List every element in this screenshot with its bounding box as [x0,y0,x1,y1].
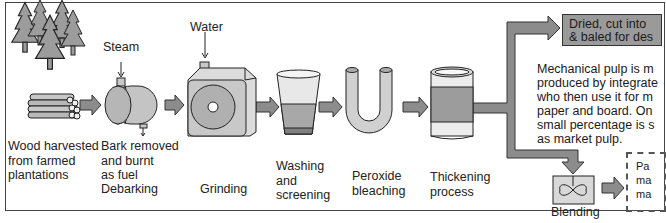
debarking-drum-icon [105,62,157,136]
stage-blending-label: Blending [551,205,600,220]
arrow-1 [80,95,101,115]
stage-bleaching-label: Peroxide bleaching [352,169,406,198]
stage-debarking-sublabel: Debarking [101,182,158,197]
steam-label: Steam [103,40,139,55]
arrow-4 [319,97,342,117]
output-paper-box: Pa ma ma [626,152,666,212]
stage-grinding-label: Grinding [200,182,247,197]
water-label: Water [190,20,223,35]
grinder-icon [188,32,256,136]
output-dried-baled-box: Dried, cut into & baled for des [562,14,662,46]
trees-icon [12,0,85,69]
stage-debarking-label: Bark removed and burnt as fuel [101,139,179,183]
mechanical-pulp-note: Mechanical pulp is m produced by integra… [537,62,658,146]
thickening-tank-icon [431,67,473,139]
stage-washing-label: Washing and screening [276,159,330,203]
arrow-2 [165,95,184,115]
arrow-blend-out [602,177,624,199]
arrow-5 [403,97,428,117]
washing-vessel-icon [277,70,320,134]
arrow-3 [256,97,279,117]
stage-thickening-label: Thickening process [430,170,490,199]
log-pile-icon [28,94,80,119]
blender-mixer-icon [553,176,594,204]
stage-harvest-label: Wood harvested from farmed plantations [8,139,99,183]
u-tube-icon [346,68,392,133]
